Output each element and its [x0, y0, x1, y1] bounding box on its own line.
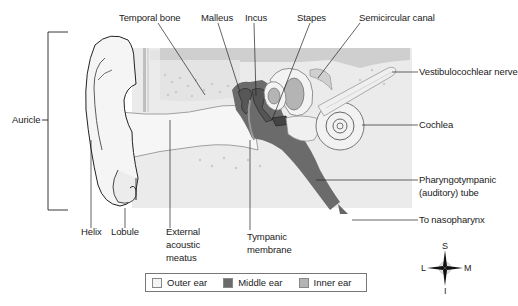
- label-tympanic-membrane: Tympanic membrane: [247, 231, 292, 255]
- compass-label-medial: M: [464, 263, 472, 273]
- label-external-acoustic-meatus: External acoustic meatus: [166, 226, 200, 263]
- label-temporal-bone: Temporal bone: [119, 12, 181, 23]
- legend-swatch-middle-ear: [223, 278, 233, 288]
- label-external-line2: acoustic: [166, 239, 200, 250]
- compass-rose: [427, 250, 463, 286]
- legend-label-middle-ear: Middle ear: [238, 277, 282, 288]
- label-pharyngotympanic-line2: (auditory) tube: [419, 187, 496, 198]
- label-incus: Incus: [245, 12, 267, 23]
- label-malleus: Malleus: [201, 12, 233, 23]
- label-pharyngotympanic-tube: Pharyngotympanic (auditory) tube: [419, 174, 496, 198]
- label-tympanic-line1: Tympanic: [247, 231, 292, 242]
- legend-item-middle-ear: Middle ear: [223, 277, 282, 288]
- label-stapes: Stapes: [297, 12, 326, 23]
- legend-label-outer-ear: Outer ear: [167, 277, 207, 288]
- label-auricle: Auricle: [12, 114, 40, 125]
- legend-label-inner-ear: Inner ear: [314, 277, 352, 288]
- legend: Outer ear Middle ear Inner ear: [145, 273, 367, 292]
- legend-swatch-inner-ear: [299, 278, 309, 288]
- label-cochlea: Cochlea: [419, 119, 453, 130]
- compass-label-superior: S: [442, 241, 448, 251]
- label-helix: Helix: [81, 226, 102, 237]
- label-pharyngotympanic-line1: Pharyngotympanic: [419, 174, 496, 185]
- label-external-line3: meatus: [166, 252, 200, 263]
- label-tympanic-line2: membrane: [247, 244, 292, 255]
- label-lobule: Lobule: [111, 226, 139, 237]
- label-vestibulocochlear-nerve: Vestibulocochlear nerve: [419, 66, 518, 77]
- legend-swatch-outer-ear: [152, 278, 162, 288]
- compass-label-inferior: I: [444, 286, 447, 296]
- auricle-bracket: [42, 32, 68, 210]
- legend-item-inner-ear: Inner ear: [299, 277, 352, 288]
- legend-item-outer-ear: Outer ear: [152, 277, 207, 288]
- compass-label-lateral: L: [421, 263, 426, 273]
- label-to-nasopharynx: To nasopharynx: [419, 214, 485, 225]
- label-semicircular-canal: Semicircular canal: [359, 12, 435, 23]
- label-external-line1: External: [166, 226, 200, 237]
